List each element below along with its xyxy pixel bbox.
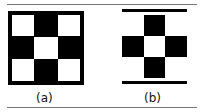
panel-b-label: (b)	[144, 91, 161, 105]
bottom-bar	[122, 81, 187, 84]
top-bar	[122, 9, 187, 12]
cross-right	[165, 36, 187, 57]
cross-top	[144, 15, 165, 36]
top-rule	[7, 4, 197, 5]
cross-bottom	[144, 57, 165, 78]
checkerboard	[8, 11, 84, 85]
panel-a-label: (a)	[36, 91, 53, 105]
cross-left	[122, 36, 144, 57]
bottom-rule	[7, 107, 197, 108]
